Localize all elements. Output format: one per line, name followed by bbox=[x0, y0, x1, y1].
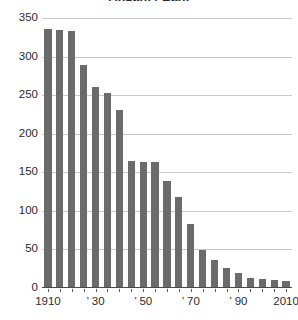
bar-1950 bbox=[140, 162, 147, 287]
y-tick-label-300: 300 bbox=[4, 51, 38, 62]
y-tick-label-200: 200 bbox=[4, 128, 38, 139]
x-tick-1965 bbox=[179, 289, 180, 292]
x-tick-label-1990: ’ 90 bbox=[229, 295, 247, 308]
x-tick-1940 bbox=[119, 289, 120, 292]
y-tick-label-50: 50 bbox=[4, 243, 38, 254]
bar-1990 bbox=[235, 273, 242, 287]
x-tick-label-1910: 1910 bbox=[35, 295, 61, 308]
x-tick-1950 bbox=[143, 289, 144, 292]
bar-1910 bbox=[44, 29, 51, 287]
gridline-300 bbox=[42, 57, 292, 58]
bar-2005 bbox=[271, 280, 278, 287]
y-tick-label-150: 150 bbox=[4, 166, 38, 177]
y-axis-labels: 050100150200250300350 bbox=[0, 18, 38, 288]
x-tick-label-1930: ’ 30 bbox=[87, 295, 105, 308]
bar-1925 bbox=[80, 65, 87, 287]
x-tick-1995 bbox=[250, 289, 251, 292]
bar-chart-figure: Anzahl / Zahl 050100150200250300350 1910… bbox=[0, 0, 298, 320]
x-tick-2005 bbox=[274, 289, 275, 292]
bar-1955 bbox=[151, 162, 158, 287]
bar-1980 bbox=[211, 260, 218, 287]
gridline-350 bbox=[42, 18, 292, 19]
bar-1960 bbox=[163, 181, 170, 287]
x-tick-1980 bbox=[215, 289, 216, 292]
bar-1920 bbox=[68, 31, 75, 287]
x-tick-1910 bbox=[48, 289, 49, 292]
x-tick-label-2010: 2010 bbox=[273, 295, 298, 308]
y-tick-label-350: 350 bbox=[4, 12, 38, 23]
x-tick-label-1950: ’ 50 bbox=[134, 295, 152, 308]
bar-1930 bbox=[92, 87, 99, 287]
x-axis-ticks bbox=[42, 289, 292, 293]
x-tick-1935 bbox=[107, 289, 108, 292]
y-tick-label-100: 100 bbox=[4, 205, 38, 216]
bar-1985 bbox=[223, 268, 230, 287]
bar-1945 bbox=[128, 161, 135, 287]
x-tick-2000 bbox=[262, 289, 263, 292]
bar-2000 bbox=[259, 279, 266, 287]
x-tick-1920 bbox=[72, 289, 73, 292]
bar-1935 bbox=[104, 93, 111, 287]
bar-1915 bbox=[56, 30, 63, 287]
x-tick-1975 bbox=[203, 289, 204, 292]
x-tick-1970 bbox=[191, 289, 192, 292]
x-axis-labels: 1910’ 30’ 50’ 70’ 902010 bbox=[0, 295, 298, 311]
x-tick-1930 bbox=[96, 289, 97, 292]
x-tick-1915 bbox=[60, 289, 61, 292]
x-tick-1955 bbox=[155, 289, 156, 292]
bar-1940 bbox=[116, 110, 123, 287]
y-tick-label-250: 250 bbox=[4, 89, 38, 100]
bar-1970 bbox=[187, 224, 194, 287]
x-tick-1925 bbox=[84, 289, 85, 292]
x-tick-1960 bbox=[167, 289, 168, 292]
bar-1995 bbox=[247, 278, 254, 287]
x-axis-line bbox=[42, 287, 292, 288]
x-tick-1945 bbox=[131, 289, 132, 292]
chart-title: Anzahl / Zahl bbox=[0, 0, 298, 4]
plot-area bbox=[42, 18, 292, 288]
y-tick-label-0: 0 bbox=[4, 282, 38, 293]
x-tick-2010 bbox=[286, 289, 287, 292]
bar-1965 bbox=[175, 197, 182, 287]
bar-1975 bbox=[199, 250, 206, 287]
x-tick-label-1970: ’ 70 bbox=[182, 295, 200, 308]
x-tick-1985 bbox=[227, 289, 228, 292]
x-tick-1990 bbox=[238, 289, 239, 292]
